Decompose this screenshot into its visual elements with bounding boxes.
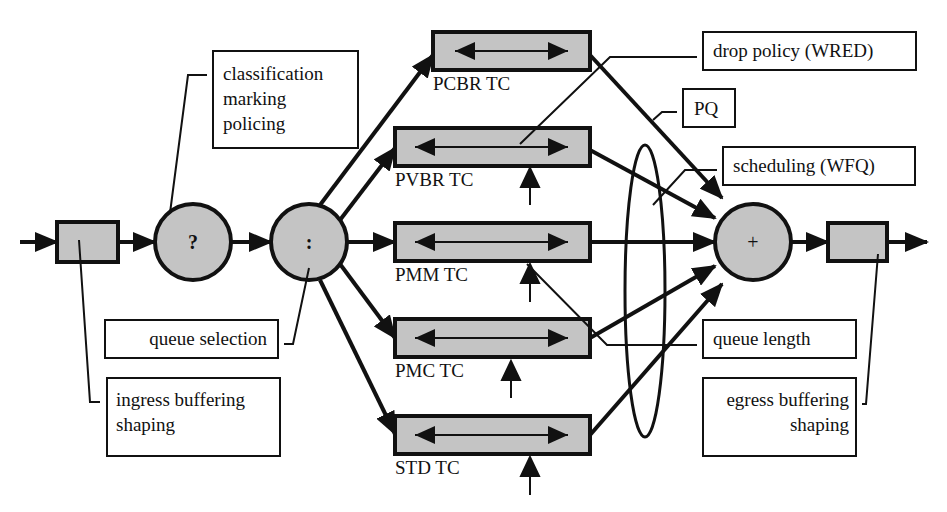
annotation-queue-length: queue length — [703, 320, 856, 358]
svg-text:queue selection: queue selection — [149, 328, 267, 349]
annotation-scheduling: scheduling (WFQ) — [723, 147, 915, 185]
egress-leader-line — [862, 254, 878, 404]
queue-pcbr: PCBR TC — [433, 32, 590, 94]
queue-label-std: STD TC — [395, 457, 460, 478]
annotation-classification: classification marking policing — [213, 51, 358, 148]
annotation-ingress: ingress buffering shaping — [107, 378, 280, 456]
svg-text:drop policy (WRED): drop policy (WRED) — [713, 40, 873, 62]
classifier-symbol: ? — [188, 231, 198, 253]
svg-text:ingress buffering: ingress buffering — [116, 389, 245, 410]
annotation-drop-policy: drop policy (WRED) — [703, 32, 916, 70]
svg-text:queue length: queue length — [713, 328, 811, 349]
svg-text:egress buffering: egress buffering — [726, 389, 849, 410]
queue-label-pvbr: PVBR TC — [395, 169, 473, 190]
queue-pmm: PMM TC — [395, 223, 590, 285]
queue-group-ellipse — [625, 145, 665, 437]
scheduler-symbol: + — [747, 231, 758, 253]
queue-selector-symbol: : — [306, 231, 313, 253]
queue-pmc: PMC TC — [395, 319, 590, 381]
queue-label-pmm: PMM TC — [395, 264, 468, 285]
svg-text:PQ: PQ — [694, 98, 719, 119]
queue-pvbr: PVBR TC — [395, 128, 590, 190]
svg-text:marking: marking — [223, 88, 287, 109]
annotation-egress: egress buffering shaping — [703, 378, 856, 456]
queue-label-pmc: PMC TC — [395, 360, 464, 381]
pq-leader-line — [653, 112, 677, 120]
svg-text:scheduling (WFQ): scheduling (WFQ) — [733, 155, 875, 177]
qos-diagram: ? : PCBR TC PVBR TC PMM TC — [0, 0, 947, 512]
svg-text:classification: classification — [223, 63, 324, 84]
classifier-node: ? — [155, 204, 231, 280]
annotation-pq: PQ — [683, 89, 735, 127]
queue-label-pcbr: PCBR TC — [433, 73, 510, 94]
ingress-leader-line — [79, 240, 100, 402]
scheduler-node: + — [715, 204, 791, 280]
svg-text:shaping: shaping — [116, 414, 176, 435]
queue-std: STD TC — [395, 416, 590, 478]
svg-text:shaping: shaping — [790, 414, 850, 435]
ingress-buffer-box — [57, 222, 118, 262]
annotation-queue-selection: queue selection — [105, 320, 278, 358]
svg-text:policing: policing — [223, 113, 286, 134]
classification-leader-line — [170, 75, 207, 213]
